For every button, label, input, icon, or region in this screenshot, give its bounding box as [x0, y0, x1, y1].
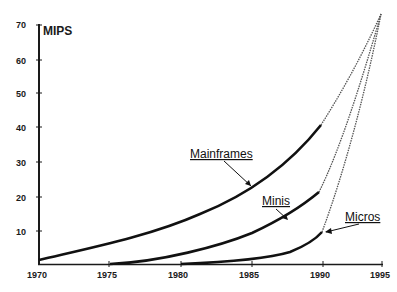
y-label-60: 60	[16, 56, 26, 66]
x-label-1990: 1990	[310, 270, 330, 280]
y-label-50: 50	[16, 89, 26, 99]
y-label-10: 10	[16, 227, 26, 237]
y-label-30: 30	[16, 158, 26, 168]
y-unit-label: MIPS	[43, 24, 72, 38]
mips-chart: 70 60 50 40 30 20 10 MIPS 1970 1975 1980…	[0, 0, 397, 292]
label-micros: Micros	[345, 210, 380, 224]
y-label-70: 70	[16, 20, 26, 30]
x-label-1985: 1985	[239, 270, 259, 280]
x-label-1975: 1975	[97, 270, 117, 280]
projection-minis	[319, 14, 381, 192]
series-mainframes	[39, 125, 321, 260]
projection-mainframes	[321, 14, 381, 125]
x-label-1970: 1970	[27, 270, 47, 280]
projection-micros	[322, 14, 381, 232]
y-label-20: 20	[16, 193, 26, 203]
label-mainframes: Mainframes	[190, 147, 253, 161]
x-label-1995: 1995	[370, 270, 390, 280]
y-label-40: 40	[16, 123, 26, 133]
label-minis: Minis	[262, 194, 290, 208]
arrowhead-micros-icon	[325, 228, 332, 234]
y-tick-labels: 70 60 50 40 30 20 10	[16, 20, 26, 237]
x-tick-labels: 1970 1975 1980 1985 1990 1995	[27, 270, 390, 280]
x-label-1980: 1980	[168, 270, 188, 280]
